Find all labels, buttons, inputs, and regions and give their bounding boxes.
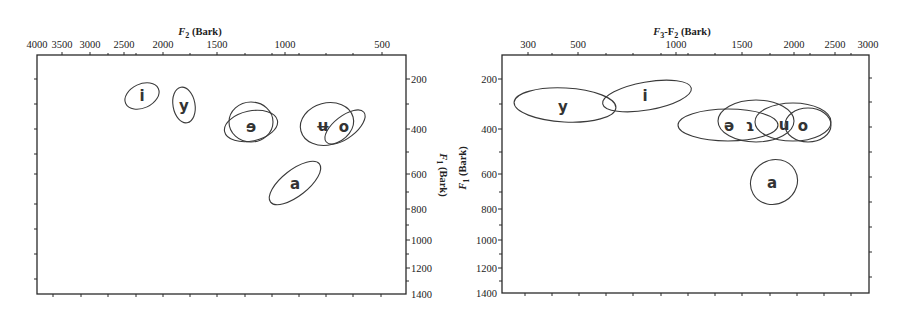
- y-tick-label: 600: [411, 169, 427, 180]
- svg-text:i: i: [139, 87, 144, 105]
- left-plot-frame: [37, 55, 406, 294]
- left-chart: F2 (Bark) 4000 3500 3000 2500 2000 1500 …: [27, 26, 450, 300]
- x-tick-label: 2000: [153, 39, 174, 50]
- x-tick-label: 2000: [784, 39, 805, 50]
- left-x-axis-title: F2 (Bark): [177, 26, 222, 40]
- svg-text:o: o: [339, 118, 349, 136]
- svg-text:y: y: [558, 98, 568, 116]
- right-chart: F3-F2 (Bark) 300 500 1000 1500 2000 2500…: [457, 26, 879, 299]
- vowel-ellipse-o: o: [785, 108, 831, 142]
- right-plot-frame: [502, 55, 869, 293]
- x-tick-label: 1500: [732, 39, 753, 50]
- svg-text:ɿ: ɿ: [746, 117, 755, 135]
- y-tick-label: 1000: [411, 235, 432, 246]
- y-tick-label: 600: [481, 169, 497, 180]
- x-tick-label: 1000: [666, 39, 687, 50]
- x-tick-label: 4000: [27, 39, 48, 50]
- vowel-ellipse-schwa: ə: [678, 109, 778, 141]
- vowel-ellipse-y: y: [513, 85, 617, 124]
- x-tick-label: 2500: [114, 39, 135, 50]
- x-tick-label: 2500: [825, 39, 846, 50]
- left-y-axis-title: F1 (Bark): [435, 152, 449, 197]
- svg-text:o: o: [798, 117, 808, 135]
- right-y-axis-title: F1 (Bark): [457, 146, 471, 191]
- left-y-tick-labels: 200 400 600 800 1000 1200 1400: [411, 74, 432, 300]
- left-x-tick-labels: 4000 3500 3000 2500 2000 1500 1000 500: [27, 39, 390, 50]
- y-tick-label: 1400: [476, 288, 497, 299]
- y-tick-label: 1400: [411, 289, 432, 300]
- right-vowel-ellipses: y i ə ɿ u o a: [513, 74, 831, 213]
- vowel-ellipse-schwa: ɘ: [221, 102, 280, 146]
- vowel-ellipse-u: u: [755, 103, 831, 141]
- svg-text:i: i: [642, 87, 647, 105]
- x-tick-label: 500: [570, 39, 586, 50]
- x-tick-label: 300: [520, 39, 536, 50]
- right-y-tick-labels: 200 400 600 800 1000 1200 1400: [476, 74, 497, 299]
- right-x-tick-labels: 300 500 1000 1500 2000 2500 3000: [520, 39, 878, 50]
- svg-text:ɘ: ɘ: [246, 118, 256, 136]
- y-tick-label: 800: [411, 204, 427, 215]
- svg-text:a: a: [767, 174, 777, 192]
- x-tick-label: 3000: [80, 39, 101, 50]
- svg-text:y: y: [179, 97, 189, 115]
- y-tick-label: 400: [411, 124, 427, 135]
- y-tick-label: 200: [411, 74, 427, 85]
- vowel-space-figure: F2 (Bark) 4000 3500 3000 2500 2000 1500 …: [0, 0, 904, 312]
- y-tick-label: 200: [481, 74, 497, 85]
- svg-text:ʉ: ʉ: [316, 117, 330, 135]
- vowel-ellipse-i: i: [121, 78, 164, 115]
- x-tick-label: 3000: [858, 39, 879, 50]
- y-tick-label: 1200: [411, 263, 432, 274]
- right-x-axis-title: F3-F2 (Bark): [652, 26, 711, 40]
- y-tick-label: 1200: [476, 263, 497, 274]
- vowel-ellipse-a: a: [263, 154, 328, 213]
- vowel-ellipse-y: y: [170, 85, 198, 124]
- vowel-ellipse-a: a: [742, 151, 806, 213]
- y-tick-label: 400: [481, 124, 497, 135]
- x-tick-label: 1500: [207, 39, 228, 50]
- svg-text:a: a: [290, 175, 300, 193]
- svg-text:ə: ə: [724, 117, 734, 135]
- left-vowel-ellipses: i y ɘ ʉ o a: [121, 78, 371, 213]
- x-tick-label: 1000: [275, 39, 296, 50]
- x-tick-label: 3500: [52, 39, 73, 50]
- y-tick-label: 1000: [476, 235, 497, 246]
- x-tick-label: 500: [374, 39, 390, 50]
- svg-text:u: u: [779, 116, 790, 134]
- vowel-ellipse-i: i: [600, 74, 693, 117]
- y-tick-label: 800: [481, 204, 497, 215]
